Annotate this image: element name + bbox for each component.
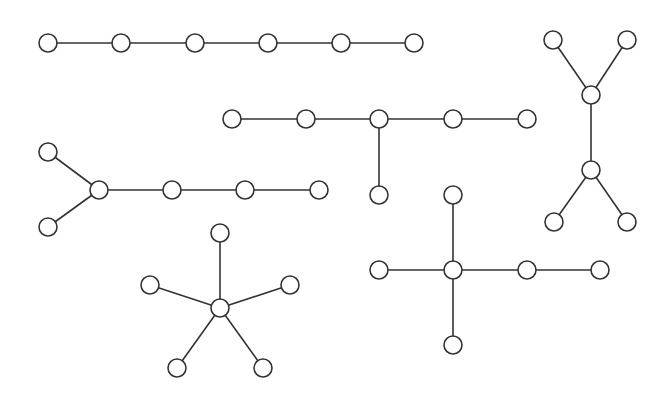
node xyxy=(518,110,536,128)
node xyxy=(90,181,108,199)
node xyxy=(297,110,315,128)
node xyxy=(332,34,350,52)
node xyxy=(518,261,536,279)
node xyxy=(310,181,328,199)
node xyxy=(591,261,609,279)
node xyxy=(236,181,254,199)
node xyxy=(211,224,229,242)
node xyxy=(186,34,204,52)
node xyxy=(163,181,181,199)
node xyxy=(223,110,241,128)
node xyxy=(444,336,462,354)
node xyxy=(370,261,388,279)
node xyxy=(141,276,159,294)
edge xyxy=(591,40,627,95)
graph-diagram xyxy=(0,0,669,396)
edge xyxy=(150,285,220,308)
node xyxy=(39,143,57,161)
node xyxy=(370,186,388,204)
node xyxy=(582,86,600,104)
node xyxy=(545,213,563,231)
node xyxy=(39,218,57,236)
edge xyxy=(553,40,591,95)
edge xyxy=(220,285,290,308)
node xyxy=(259,34,277,52)
graph-star-5 xyxy=(141,224,299,377)
node xyxy=(39,34,57,52)
node xyxy=(444,261,462,279)
node xyxy=(211,299,229,317)
edge xyxy=(220,308,263,368)
graph-fork-path xyxy=(39,143,328,236)
node xyxy=(444,186,462,204)
graph-path-6 xyxy=(39,34,423,52)
node xyxy=(544,31,562,49)
graph-h-shape xyxy=(544,31,636,231)
node xyxy=(112,34,130,52)
edge xyxy=(177,308,220,368)
graph-cross xyxy=(370,186,609,354)
node xyxy=(405,34,423,52)
node xyxy=(281,276,299,294)
graph-canvas xyxy=(0,0,669,396)
node xyxy=(618,31,636,49)
node xyxy=(444,110,462,128)
node xyxy=(168,359,186,377)
node xyxy=(254,359,272,377)
node xyxy=(618,213,636,231)
node xyxy=(370,110,388,128)
node xyxy=(582,161,600,179)
